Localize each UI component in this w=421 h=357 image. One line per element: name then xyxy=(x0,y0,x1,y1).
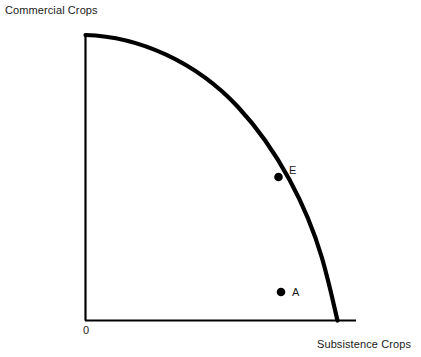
point-e-marker xyxy=(274,173,283,182)
point-a-marker xyxy=(277,288,286,297)
origin-label: 0 xyxy=(83,324,89,336)
ppf-plot-svg xyxy=(0,0,421,357)
point-e-label: E xyxy=(289,164,296,176)
x-axis-label: Subsistence Crops xyxy=(317,338,411,350)
ppf-figure: Commercial Crops Subsistence Crops 0 E A xyxy=(0,0,421,357)
y-axis-label: Commercial Crops xyxy=(5,4,98,16)
ppf-curve xyxy=(86,35,338,321)
point-a-label: A xyxy=(292,286,299,298)
